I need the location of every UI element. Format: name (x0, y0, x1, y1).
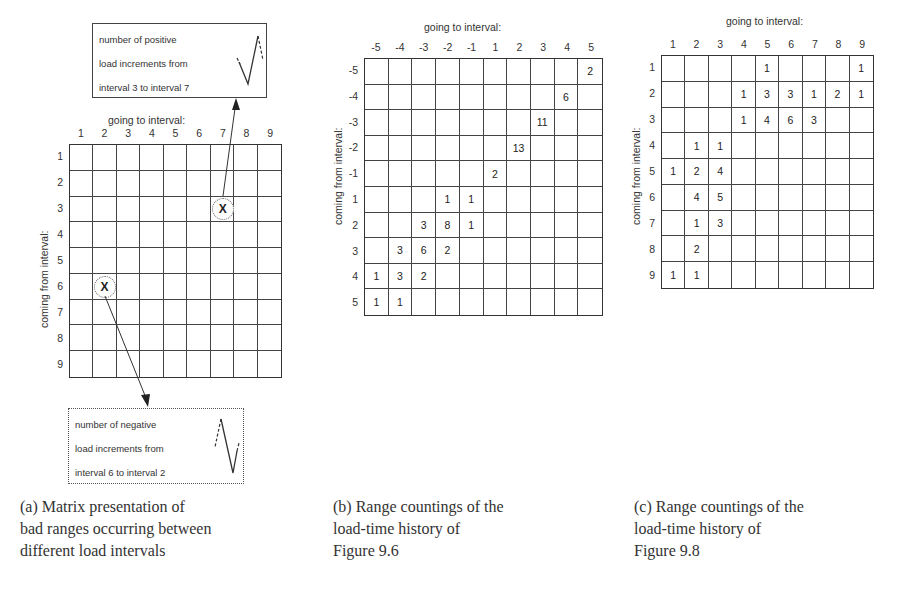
matrix-cell (258, 197, 281, 223)
caption-line: load-time history of (333, 518, 504, 540)
matrix-cell (436, 161, 460, 187)
matrix-cell (140, 300, 163, 326)
matrix-cell (531, 213, 555, 239)
matrix-cell (258, 351, 281, 377)
caption-line: load-time history of (634, 518, 804, 540)
matrix-cell (460, 238, 484, 264)
matrix-cell (507, 264, 531, 290)
callout-line: number of negative (75, 419, 156, 430)
matrix-cell (187, 171, 210, 197)
matrix-cell (187, 197, 210, 223)
caption-line: (c) Range countings of the (634, 496, 804, 518)
matrix-cell (436, 59, 460, 85)
row-tick-label: 2 (340, 219, 358, 231)
matrix-cell (578, 110, 602, 136)
matrix-cell (826, 56, 849, 82)
matrix-cell (850, 236, 873, 262)
row-tick-label: 3 (637, 113, 655, 125)
negative-increment-wave-icon (211, 415, 241, 477)
column-tick-label: 5 (758, 38, 778, 50)
matrix-cell (555, 59, 579, 85)
matrix-cell (70, 248, 93, 274)
matrix-cell (436, 289, 460, 315)
matrix-cell: 1 (850, 82, 873, 108)
cell-marker-x-icon: X (212, 198, 234, 220)
caption-line: Figure 9.6 (333, 540, 504, 562)
matrix-cell (187, 300, 210, 326)
matrix-cell (187, 145, 210, 171)
column-tick-label: 3 (118, 127, 138, 139)
matrix-cell: 4 (685, 185, 708, 211)
matrix-cell (578, 161, 602, 187)
matrix-cell: 2 (484, 161, 508, 187)
matrix-cell (662, 211, 685, 237)
row-tick-label: 4 (637, 139, 655, 151)
matrix-cell (732, 236, 755, 262)
positive-increment-wave-icon (236, 32, 266, 90)
matrix-cell (460, 85, 484, 111)
row-tick-label: 2 (45, 176, 63, 188)
matrix-cell (140, 145, 163, 171)
matrix-cell (484, 110, 508, 136)
matrix-cell (211, 145, 234, 171)
matrix-cell: 1 (685, 133, 708, 159)
matrix-cell: 5 (709, 185, 732, 211)
matrix-cell (578, 85, 602, 111)
positive-increment-callout: number of positive load increments from … (92, 23, 267, 98)
matrix-cell (412, 289, 436, 315)
matrix-cell (732, 133, 755, 159)
row-tick-label: 8 (637, 243, 655, 255)
matrix-cell (187, 248, 210, 274)
matrix-cell (803, 236, 826, 262)
row-tick-label: 8 (45, 332, 63, 344)
matrix-cell (140, 351, 163, 377)
matrix-cell (412, 161, 436, 187)
range-count-matrix-c: 111331211463111244513211 (661, 55, 874, 289)
column-tick-label: 9 (260, 127, 280, 139)
matrix-cell (365, 136, 389, 162)
matrix-cell (850, 133, 873, 159)
matrix-cell (484, 59, 508, 85)
matrix-cell (531, 238, 555, 264)
column-tick-label: 8 (237, 127, 257, 139)
figure-caption-c: (c) Range countings of the load-time his… (634, 496, 804, 562)
callout-line: load increments from (99, 58, 188, 69)
matrix-cell: 1 (803, 82, 826, 108)
matrix-cell (117, 351, 140, 377)
matrix-cell (140, 171, 163, 197)
matrix-cell (803, 56, 826, 82)
range-count-matrix-b: 26111321138136213211 (364, 58, 603, 316)
caption-line: (a) Matrix presentation of (20, 496, 211, 518)
matrix-cell: 1 (460, 187, 484, 213)
matrix-cell (258, 300, 281, 326)
matrix-cell (93, 325, 116, 351)
matrix-cell (365, 161, 389, 187)
matrix-cell (117, 222, 140, 248)
column-tick-label: -4 (390, 41, 410, 53)
column-tick-label: 7 (805, 38, 825, 50)
column-tick-label: -2 (438, 41, 458, 53)
row-tick-label: 5 (340, 296, 358, 308)
figure-caption-b: (b) Range countings of the load-time his… (333, 496, 504, 562)
matrix-cell (389, 213, 413, 239)
matrix-cell (70, 197, 93, 223)
matrix-cell (258, 145, 281, 171)
matrix-cell (779, 159, 802, 185)
matrix-cell (164, 325, 187, 351)
matrix-cell (578, 264, 602, 290)
matrix-cell (93, 300, 116, 326)
matrix-cell (365, 238, 389, 264)
row-tick-label: 3 (45, 202, 63, 214)
matrix-cell (258, 325, 281, 351)
matrix-cell (850, 108, 873, 134)
row-tick-label: -1 (340, 167, 358, 179)
matrix-cell (555, 264, 579, 290)
matrix-cell (164, 274, 187, 300)
matrix-cell (258, 171, 281, 197)
matrix-cell (117, 197, 140, 223)
matrix-cell (389, 59, 413, 85)
matrix-cell (164, 197, 187, 223)
matrix-cell (234, 351, 257, 377)
matrix-cell (555, 161, 579, 187)
matrix-cell (164, 300, 187, 326)
